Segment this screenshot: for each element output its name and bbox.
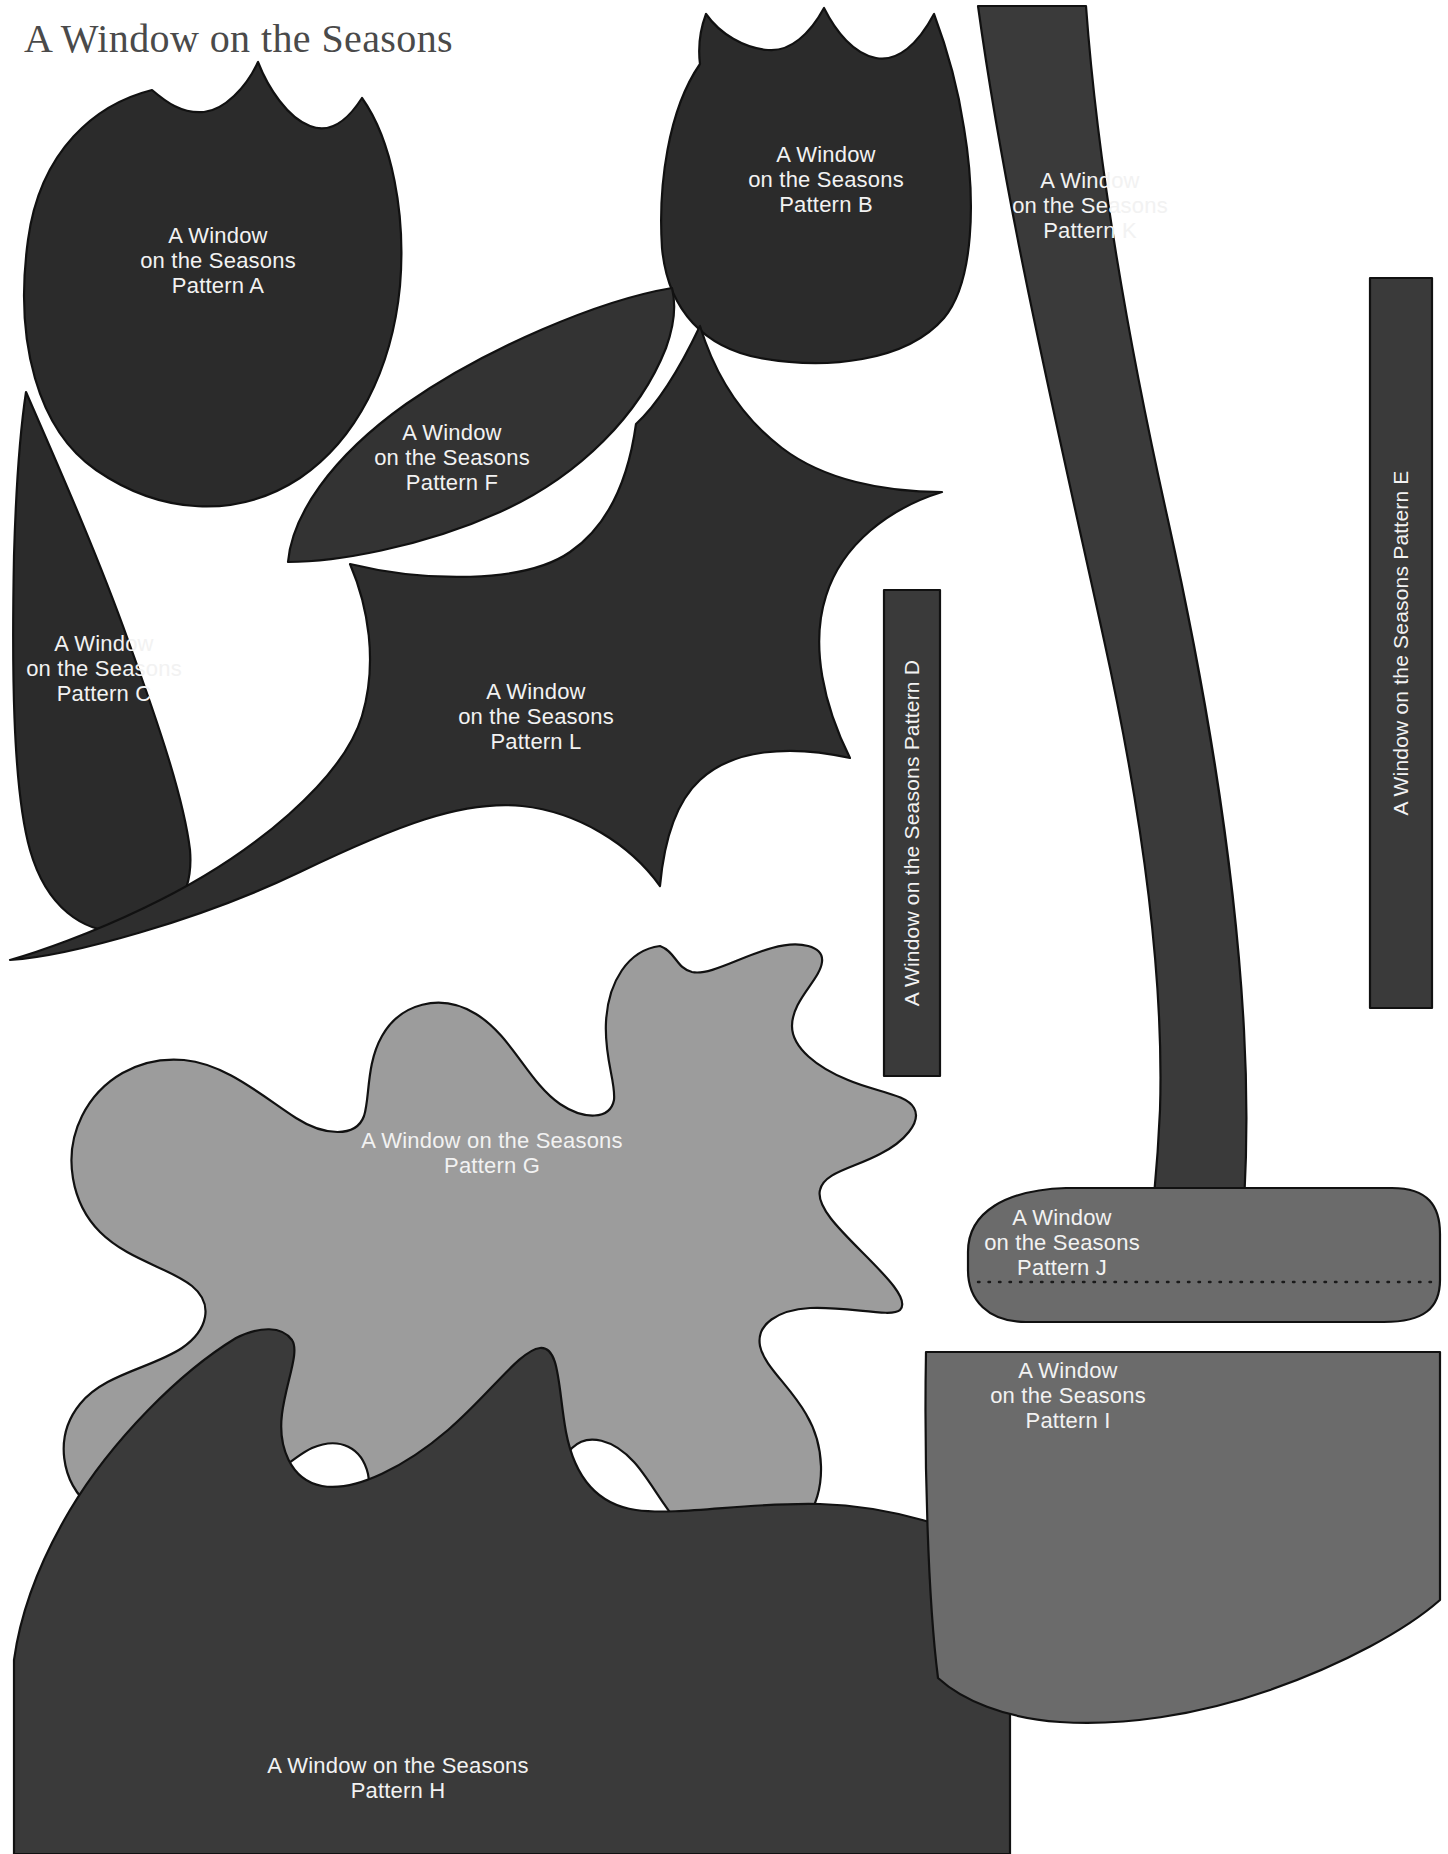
pattern-piece-a[interactable]: A Window on the Seasons Pattern A — [24, 62, 401, 506]
pattern-piece-h-label-line-1: A Window on the Seasons — [267, 1753, 528, 1778]
pattern-piece-f-label-line-2: on the Seasons — [374, 445, 530, 470]
pattern-piece-a-label-line-2: on the Seasons — [140, 248, 296, 273]
pattern-piece-f-label-line-3: Pattern F — [406, 470, 498, 495]
pattern-piece-k-label-line-3: Pattern K — [1043, 218, 1137, 243]
pattern-piece-l-label-line-3: Pattern L — [490, 729, 581, 754]
pattern-piece-l-label-line-1: A Window — [486, 679, 585, 704]
pattern-piece-i-label-line-3: Pattern I — [1026, 1408, 1111, 1433]
pattern-piece-b[interactable]: A Window on the Seasons Pattern B — [661, 8, 971, 363]
pattern-piece-c-label-line-2: on the Seasons — [26, 656, 182, 681]
pattern-piece-j-label-line-3: Pattern J — [1017, 1255, 1107, 1280]
pattern-piece-k-label-line-2: on the Seasons — [1012, 193, 1168, 218]
pattern-piece-k[interactable]: A Window on the Seasons Pattern K — [978, 6, 1246, 1322]
pattern-piece-l-label-line-2: on the Seasons — [458, 704, 614, 729]
pattern-piece-h[interactable]: A Window on the Seasons Pattern H — [14, 1329, 1010, 1854]
page-title: A Window on the Seasons — [24, 16, 453, 61]
pattern-piece-i[interactable]: A Window on the Seasons Pattern I — [926, 1352, 1441, 1723]
pattern-piece-f-label-line-1: A Window — [402, 420, 501, 445]
pattern-piece-i-label-line-1: A Window — [1018, 1358, 1117, 1383]
pattern-piece-h-label-line-2: Pattern H — [351, 1778, 446, 1803]
pattern-piece-a-label-line-1: A Window — [168, 223, 267, 248]
pattern-piece-b-label-line-1: A Window — [776, 142, 875, 167]
pattern-piece-e[interactable]: A Window on the Seasons Pattern E — [1370, 278, 1432, 1008]
pattern-piece-i-label-line-2: on the Seasons — [990, 1383, 1146, 1408]
pattern-piece-j-label-line-2: on the Seasons — [984, 1230, 1140, 1255]
pattern-piece-j[interactable]: A Window on the Seasons Pattern J — [968, 1188, 1440, 1322]
pattern-piece-j-label-line-1: A Window — [1012, 1205, 1111, 1230]
pattern-piece-c-label-line-1: A Window — [54, 631, 153, 656]
pattern-piece-a-label-line-3: Pattern A — [172, 273, 264, 298]
pattern-sheet-canvas: A Window on the Seasons A Window on the … — [0, 0, 1448, 1854]
pattern-piece-b-label-line-2: on the Seasons — [748, 167, 904, 192]
pattern-sheet: A Window on the Seasons A Window on the … — [0, 0, 1448, 1854]
pattern-piece-b-label-line-3: Pattern B — [779, 192, 873, 217]
pattern-piece-g-label-line-2: Pattern G — [444, 1153, 540, 1178]
pattern-piece-d-label: A Window on the Seasons Pattern D — [900, 660, 923, 1006]
pattern-piece-g-label-line-1: A Window on the Seasons — [361, 1128, 622, 1153]
pattern-piece-d[interactable]: A Window on the Seasons Pattern D — [884, 590, 940, 1076]
pattern-piece-c-label-line-3: Pattern C — [57, 681, 152, 706]
pattern-piece-k-label-line-1: A Window — [1040, 168, 1139, 193]
pattern-piece-e-label: A Window on the Seasons Pattern E — [1389, 470, 1412, 815]
